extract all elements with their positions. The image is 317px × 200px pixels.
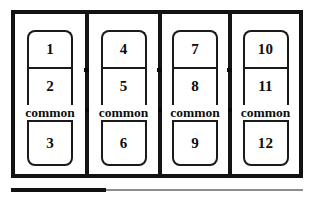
terminal-block-upper-2: 4 5 <box>101 30 147 105</box>
terminal-cell: 2 <box>29 69 71 106</box>
common-label-4: common <box>232 105 299 120</box>
common-label-2: common <box>89 105 158 120</box>
terminal-block-lower-4: 12 <box>243 120 289 166</box>
bottom-rule-heavy-segment <box>11 188 106 192</box>
terminal-block-upper-4: 10 11 <box>243 30 289 105</box>
common-label-3: common <box>162 105 228 120</box>
common-label-1: common <box>15 105 85 120</box>
terminal-panel-3: 7 8 common 9 <box>162 10 228 178</box>
terminal-cell: 8 <box>174 69 216 106</box>
terminal-cell: 5 <box>103 69 145 106</box>
terminal-cell: 7 <box>174 32 216 69</box>
terminal-block-lower-3: 9 <box>172 120 218 166</box>
terminal-panel-2: 4 5 common 6 <box>89 10 158 178</box>
terminal-cell: 1 <box>29 32 71 69</box>
terminal-cell: 3 <box>46 135 54 152</box>
terminal-cell: 11 <box>245 69 287 106</box>
terminal-block-upper-3: 7 8 <box>172 30 218 105</box>
panel-divider-2 <box>158 10 162 178</box>
terminal-cell: 4 <box>103 32 145 69</box>
terminal-panel-4: 10 11 common 12 <box>232 10 299 178</box>
panel-divider-3 <box>228 10 232 178</box>
terminal-block-diagram: 1 2 common 3 4 5 common 6 7 8 common 9 1… <box>0 0 317 200</box>
terminal-panel-1: 1 2 common 3 <box>15 10 85 178</box>
terminal-block-upper-1: 1 2 <box>27 30 73 105</box>
terminal-cell: 12 <box>258 135 273 152</box>
panel-divider-1 <box>85 10 89 178</box>
terminal-cell: 10 <box>245 32 287 69</box>
divider-nub <box>227 68 232 72</box>
terminal-block-lower-2: 6 <box>101 120 147 166</box>
terminal-block-lower-1: 3 <box>27 120 73 166</box>
divider-nub <box>84 68 89 72</box>
terminal-cell: 6 <box>120 135 128 152</box>
divider-nub <box>157 68 162 72</box>
terminal-cell: 9 <box>191 135 199 152</box>
